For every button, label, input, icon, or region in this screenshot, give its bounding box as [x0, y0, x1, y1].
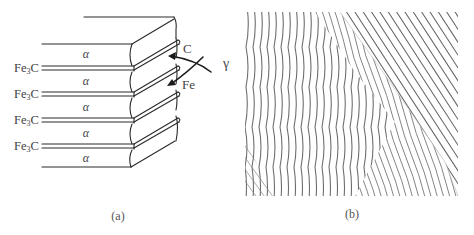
cementite-label-4: Fe3C	[14, 140, 39, 154]
cementite-label-1: Fe3C	[14, 62, 39, 76]
panel-b-pearlite-micrograph: (b)	[240, 0, 474, 235]
cementite-label-3: Fe3C	[14, 114, 39, 128]
caption-b: (b)	[345, 208, 359, 220]
ferrite-label-2: α	[83, 75, 89, 87]
ferrite-label-4: α	[83, 127, 89, 139]
micrograph-image	[245, 12, 458, 196]
austenite-gamma-label: γ	[223, 57, 229, 71]
ferrite-label-3: α	[83, 101, 89, 113]
carbon-label: C	[183, 42, 192, 55]
iron-label: Fe	[182, 78, 195, 91]
ferrite-label-1: α	[83, 48, 89, 60]
caption-a: (a)	[111, 210, 124, 222]
lamellae-texture	[245, 12, 458, 196]
ferrite-label-5: α	[83, 152, 89, 164]
cementite-label-2: Fe3C	[14, 88, 39, 102]
panel-a-pearlite-schematic: α α α α α Fe3C Fe3C Fe3C Fe3C C Fe γ (a)	[0, 0, 240, 235]
